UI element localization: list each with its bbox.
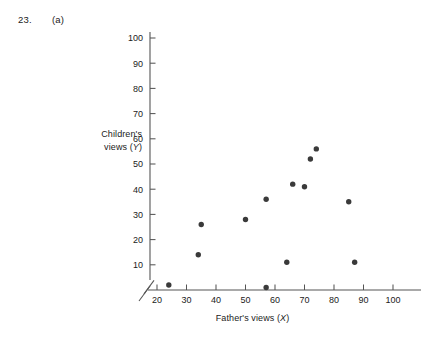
data-point bbox=[166, 282, 171, 287]
data-point bbox=[284, 260, 289, 265]
data-point bbox=[199, 222, 204, 227]
data-points-group bbox=[166, 146, 357, 290]
axis-tick-labels-group: 1020304050607080901002030405060708090100 bbox=[128, 33, 401, 305]
y-axis-tick-label: 50 bbox=[133, 159, 143, 169]
x-axis-tick-label: 100 bbox=[385, 295, 400, 305]
plot-canvas: 1020304050607080901002030405060708090100 bbox=[0, 0, 436, 337]
x-axis-break-mark bbox=[139, 286, 150, 301]
x-axis-tick-label: 60 bbox=[270, 295, 280, 305]
y-axis-tick-label: 70 bbox=[133, 109, 143, 119]
x-axis-tick-label: 30 bbox=[181, 295, 191, 305]
y-axis-tick-label: 60 bbox=[133, 134, 143, 144]
axes-group bbox=[139, 32, 421, 301]
data-point bbox=[302, 184, 307, 189]
y-axis-tick-label: 10 bbox=[133, 260, 143, 270]
y-axis-tick-label: 90 bbox=[133, 59, 143, 69]
y-axis-tick-label: 20 bbox=[133, 235, 143, 245]
data-point bbox=[290, 181, 295, 186]
y-axis-tick-label: 30 bbox=[133, 210, 143, 220]
x-axis-tick-label: 70 bbox=[299, 295, 309, 305]
scatter-plot-figure: 23. (a) Children's views (Y) Father's vi… bbox=[0, 0, 436, 337]
y-axis-tick-label: 40 bbox=[133, 185, 143, 195]
y-axis-tick-label: 80 bbox=[133, 84, 143, 94]
x-axis-tick-label: 90 bbox=[358, 295, 368, 305]
data-point bbox=[196, 252, 201, 257]
x-axis-tick-label: 50 bbox=[240, 295, 250, 305]
y-axis-tick-label: 100 bbox=[128, 33, 143, 43]
data-point bbox=[243, 217, 248, 222]
data-point bbox=[308, 156, 313, 161]
x-axis-tick-label: 20 bbox=[152, 295, 162, 305]
x-axis-tick-label: 40 bbox=[211, 295, 221, 305]
x-axis-tick-label: 80 bbox=[329, 295, 339, 305]
data-point bbox=[263, 285, 268, 290]
data-point bbox=[352, 260, 357, 265]
axis-ticks-group bbox=[150, 38, 393, 290]
data-point bbox=[314, 146, 319, 151]
data-point bbox=[346, 199, 351, 204]
data-point bbox=[263, 197, 268, 202]
